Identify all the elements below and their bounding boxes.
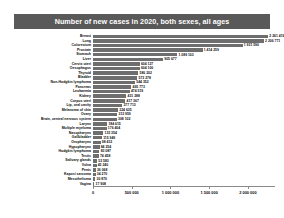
bar-chart: Number of new cases in 2020, both sexes,… bbox=[0, 0, 284, 218]
category-label: Vagina bbox=[0, 182, 93, 187]
bar bbox=[93, 104, 122, 108]
bar bbox=[93, 67, 140, 71]
page-title: Number of new cases in 2020, both sexes,… bbox=[55, 17, 230, 26]
bar bbox=[93, 71, 138, 75]
bar bbox=[93, 48, 203, 52]
bar bbox=[93, 122, 107, 126]
x-tick-label: 2 000 000 bbox=[239, 190, 256, 195]
bar bbox=[93, 154, 99, 158]
bar bbox=[93, 62, 140, 66]
bar bbox=[93, 131, 103, 135]
bar bbox=[93, 85, 131, 89]
bar bbox=[93, 118, 117, 122]
bar bbox=[93, 127, 107, 131]
bar bbox=[93, 94, 126, 98]
bar bbox=[93, 145, 100, 149]
bar bbox=[93, 99, 125, 103]
x-axis: 0500 0001 000 0001 500 0002 000 000 bbox=[93, 186, 282, 216]
x-tick-label: 1 500 000 bbox=[201, 190, 218, 195]
bar bbox=[93, 136, 102, 140]
x-tick bbox=[93, 186, 94, 189]
bar bbox=[93, 39, 264, 43]
bar bbox=[93, 76, 137, 80]
bar bbox=[93, 58, 163, 62]
bar bbox=[93, 35, 268, 39]
bar-rows: Breast2 261 419Lung2 206 771Colorectum1 … bbox=[0, 34, 284, 186]
chart-title-banner: Number of new cases in 2020, both sexes,… bbox=[14, 14, 270, 29]
bar bbox=[93, 108, 118, 112]
x-tick-label: 1 000 000 bbox=[162, 190, 179, 195]
bar bbox=[93, 53, 177, 57]
x-tick-label: 0 bbox=[92, 190, 94, 195]
bar bbox=[93, 168, 96, 172]
bar bbox=[93, 177, 95, 181]
bar bbox=[93, 150, 99, 154]
bar bbox=[93, 44, 243, 48]
x-tick bbox=[209, 186, 210, 189]
bar bbox=[93, 90, 130, 94]
plot-area: Breast2 261 419Lung2 206 771Colorectum1 … bbox=[0, 34, 284, 218]
bar bbox=[93, 81, 135, 85]
x-tick bbox=[248, 186, 249, 189]
bar bbox=[93, 113, 117, 117]
x-tick bbox=[132, 186, 133, 189]
bar bbox=[93, 164, 97, 168]
bar bbox=[93, 141, 101, 145]
x-tick bbox=[170, 186, 171, 189]
bar bbox=[93, 173, 96, 177]
x-tick-label: 500 000 bbox=[125, 190, 139, 195]
bar bbox=[93, 159, 97, 163]
